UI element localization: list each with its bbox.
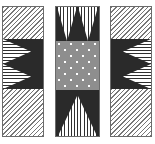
left-panel [2,6,44,137]
right-panel [110,6,152,137]
left-panel-dark-band [3,39,43,89]
center-panel-top-triangle-right [78,7,98,41]
center-panel-top-section [56,7,99,41]
center-panel-top-triangle-left [57,7,77,41]
right-panel-triangle-upper [123,39,151,64]
center-panel-bottom-triangle [58,95,97,136]
left-panel-triangle-lower [3,64,31,89]
right-panel-dark-band [111,39,151,89]
left-panel-triangle-upper [3,39,31,64]
center-panel-bottom-section [56,90,99,136]
right-panel-triangle-lower [123,64,151,89]
center-panel-dot-grid-square [56,41,99,90]
center-panel [55,6,100,137]
figure-canvas [0,0,155,144]
